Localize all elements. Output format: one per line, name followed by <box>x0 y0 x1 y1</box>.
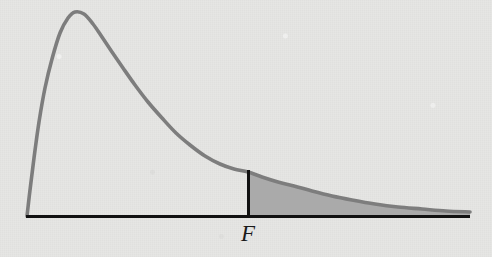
distribution-plot <box>0 0 492 257</box>
f-distribution-figure: F <box>0 0 492 257</box>
critical-value-label: F <box>241 222 255 245</box>
